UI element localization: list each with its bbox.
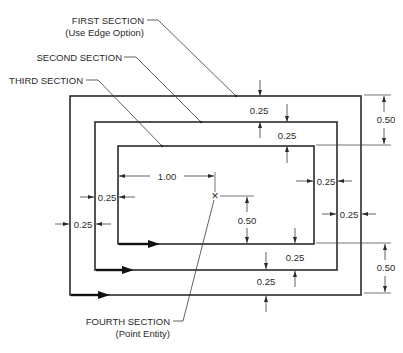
fourth-section-label: FOURTH SECTION	[86, 316, 170, 327]
fourth-section-leader	[173, 200, 214, 321]
dim-right-top: 0.50	[316, 95, 395, 145]
dim-top-inner-value: 0.25	[278, 130, 297, 141]
dim-left-outer-value: 0.25	[74, 219, 93, 230]
offset-sections-diagram: FIRST SECTION (Use Edge Option) SECOND S…	[0, 0, 403, 353]
dim-inner-width-value: 1.00	[158, 171, 177, 182]
dim-right-inner: 0.25	[296, 176, 352, 187]
dim-right-inner-value: 0.25	[317, 176, 336, 187]
second-section-leader	[124, 57, 201, 122]
start-arrow-second	[96, 266, 134, 274]
second-section-label: SECOND SECTION	[36, 52, 122, 63]
start-arrow-first	[71, 291, 110, 299]
third-section-callout: THIRD SECTION	[9, 75, 163, 147]
start-arrow-third	[119, 240, 160, 248]
dim-bottom-inner-value: 0.25	[286, 252, 305, 263]
fourth-section-note: (Point Entity)	[116, 328, 170, 339]
dim-top-outer-value: 0.25	[250, 105, 269, 116]
third-section-label: THIRD SECTION	[9, 75, 83, 86]
dim-point-height-value: 0.50	[238, 215, 257, 226]
dim-right-bottom: 0.50	[316, 243, 395, 293]
dim-bottom-outer: 0.25	[257, 252, 276, 312]
dim-left-outer: 0.25	[55, 219, 111, 230]
dim-left-inner: 0.25	[80, 192, 135, 203]
second-section-callout: SECOND SECTION	[36, 52, 202, 123]
dim-point-height: 0.50	[220, 196, 256, 243]
dim-right-outer-value: 0.25	[340, 209, 359, 220]
dim-bottom-outer-value: 0.25	[257, 276, 276, 287]
first-section-note: (Use Edge Option)	[65, 27, 144, 38]
dim-bottom-inner: 0.25	[286, 228, 305, 287]
leader-dot	[200, 121, 202, 123]
diagram-canvas: FIRST SECTION (Use Edge Option) SECOND S…	[0, 0, 403, 353]
leader-dot	[161, 145, 163, 147]
dim-left-inner-value: 0.25	[98, 192, 117, 203]
leader-dot	[235, 95, 237, 97]
third-section-leader	[86, 80, 162, 146]
dim-right-outer: 0.25	[322, 209, 376, 220]
first-section-label: FIRST SECTION	[72, 15, 144, 26]
dim-right-bottom-value: 0.50	[377, 262, 396, 273]
first-section-leader	[147, 20, 236, 96]
dim-inner-width: 1.00	[119, 171, 215, 192]
dim-right-top-value: 0.50	[377, 114, 396, 125]
dim-top-inner: 0.25	[278, 104, 297, 163]
dim-top-outer: 0.25	[250, 80, 269, 138]
